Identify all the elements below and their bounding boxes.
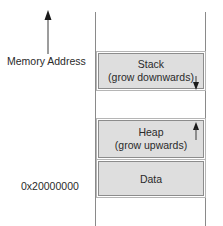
stack-note: (grow downwards) <box>99 71 203 84</box>
heap-segment: Heap (grow upwards) <box>98 120 204 158</box>
data-title: Data <box>99 172 203 185</box>
base-address-label: 0x20000000 <box>21 180 79 192</box>
memory-address-label: Memory Address <box>7 55 86 67</box>
data-segment: Data <box>98 161 204 196</box>
memory-column-left-border <box>95 12 96 226</box>
heap-title: Heap <box>99 126 203 139</box>
arrow-down-icon <box>192 76 200 90</box>
memory-address-arrow-icon <box>43 10 53 54</box>
stack-segment: Stack (grow downwards) <box>98 53 204 89</box>
stack-title: Stack <box>99 58 203 71</box>
arrow-up-icon <box>192 122 200 140</box>
heap-note: (grow upwards) <box>99 139 203 152</box>
memory-column-right-border <box>205 12 206 226</box>
